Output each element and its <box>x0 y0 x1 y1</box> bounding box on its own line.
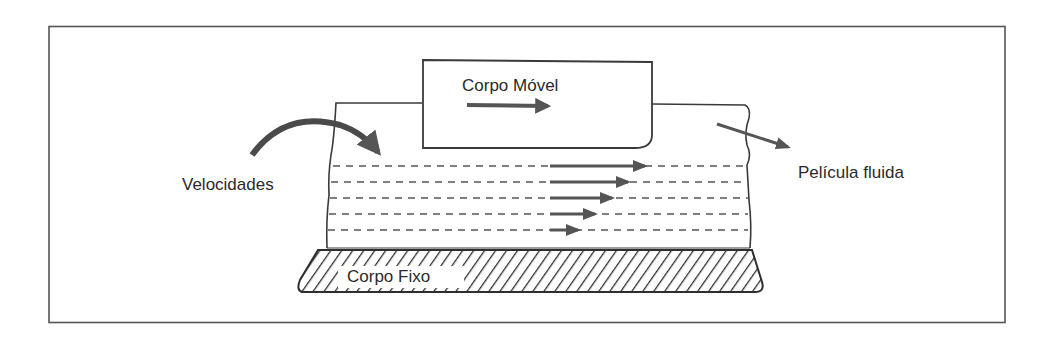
moving-body-direction-arrow <box>467 105 548 106</box>
fixed-body-label: Corpo Fixo <box>347 268 430 285</box>
fluid-film-pointer-arrow <box>717 124 788 147</box>
velocities-label: Velocidades <box>182 176 274 193</box>
fluid-film-label: Película fluida <box>798 164 904 181</box>
moving-body-label: Corpo Móvel <box>462 77 558 94</box>
velocities-pointer-arrow <box>252 121 378 155</box>
velocity-layers <box>328 166 748 230</box>
